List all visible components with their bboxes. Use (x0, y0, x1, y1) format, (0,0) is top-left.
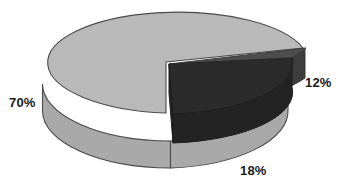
pie-chart: 70% 12% 18% (0, 0, 340, 192)
pie-chart-graphic (0, 0, 340, 192)
slice-label-12: 12% (305, 76, 332, 89)
slice-label-18: 18% (240, 164, 267, 177)
slice-label-70: 70% (9, 96, 36, 109)
